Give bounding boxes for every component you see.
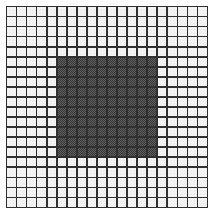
grid-cell <box>108 37 117 46</box>
grid-cell <box>17 37 26 46</box>
grid-cell <box>118 168 127 177</box>
grid-cell <box>27 198 36 207</box>
grid-cell <box>188 68 197 77</box>
grid-cell <box>37 118 46 127</box>
grid-cell <box>198 188 207 197</box>
grid-cell <box>58 17 67 26</box>
grid-cell <box>7 7 16 16</box>
grid-cell <box>188 148 197 157</box>
grid-cell <box>68 158 77 167</box>
grid-cell <box>108 138 117 147</box>
grid-cell <box>118 27 127 36</box>
grid-cell <box>128 148 137 157</box>
grid-cell <box>88 188 97 197</box>
grid-cell <box>37 7 46 16</box>
grid-cell <box>98 148 107 157</box>
grid-cell <box>148 98 157 107</box>
grid-cell <box>17 138 26 147</box>
grid-cell <box>78 118 87 127</box>
grid-cell <box>98 58 107 67</box>
grid-cell <box>168 58 177 67</box>
grid-cell <box>148 128 157 137</box>
grid-cell <box>128 17 137 26</box>
grid-cell <box>88 78 97 87</box>
grid-cell <box>138 128 147 137</box>
grid-cell <box>158 37 167 46</box>
grid-cell <box>88 58 97 67</box>
grid-cell <box>58 198 67 207</box>
grid-cell <box>168 37 177 46</box>
grid-cell <box>78 108 87 117</box>
grid-cell <box>78 148 87 157</box>
grid-cell <box>78 138 87 147</box>
grid-cell <box>58 128 67 137</box>
grid-cell <box>188 168 197 177</box>
grid-cell <box>48 58 57 67</box>
grid-cell <box>178 37 187 46</box>
grid-cell <box>17 108 26 117</box>
grid-cell <box>138 7 147 16</box>
grid-cell <box>118 128 127 137</box>
grid-cell <box>148 17 157 26</box>
grid-cell <box>58 168 67 177</box>
grid-cell <box>17 88 26 97</box>
grid-cell <box>148 148 157 157</box>
grid-cell <box>98 188 107 197</box>
grid-cell <box>88 158 97 167</box>
grid-cell <box>7 138 16 147</box>
grid-cell <box>17 58 26 67</box>
grid-cell <box>88 108 97 117</box>
grid-cell <box>17 148 26 157</box>
grid-cell <box>108 188 117 197</box>
grid-cell <box>198 138 207 147</box>
grid-cell <box>7 108 16 117</box>
grid-cell <box>138 98 147 107</box>
grid-cell <box>68 48 77 57</box>
grid-cell <box>198 198 207 207</box>
grid-cell <box>78 88 87 97</box>
grid-cell <box>118 198 127 207</box>
grid-cell <box>108 68 117 77</box>
grid-cell <box>178 98 187 107</box>
grid-cell <box>27 138 36 147</box>
grid-cell <box>198 108 207 117</box>
grid-cell <box>17 27 26 36</box>
grid-cell <box>27 17 36 26</box>
grid-cell <box>37 198 46 207</box>
grid-cell <box>48 158 57 167</box>
grid-cell <box>88 17 97 26</box>
grid-cell <box>17 198 26 207</box>
grid-cell <box>118 138 127 147</box>
grid-cell <box>37 188 46 197</box>
grid-cell <box>118 88 127 97</box>
grid-cell <box>118 108 127 117</box>
grid-cell <box>37 138 46 147</box>
grid-cell <box>37 88 46 97</box>
grid-cell <box>37 27 46 36</box>
grid-cell <box>37 108 46 117</box>
grid-cell <box>178 27 187 36</box>
grid-cell <box>68 37 77 46</box>
grid-cell <box>178 58 187 67</box>
grid-cell <box>78 17 87 26</box>
grid-cell <box>168 138 177 147</box>
grid-cell <box>48 148 57 157</box>
grid-cell <box>158 148 167 157</box>
grid-cell <box>7 158 16 167</box>
grid-cell <box>7 198 16 207</box>
grid-cell <box>108 98 117 107</box>
grid-cell <box>128 198 137 207</box>
grid-cell <box>138 178 147 187</box>
grid-cell <box>78 178 87 187</box>
grid-cell <box>68 178 77 187</box>
grid-cell <box>138 68 147 77</box>
grid-cell <box>188 118 197 127</box>
grid-cell <box>37 128 46 137</box>
grid-cell <box>128 158 137 167</box>
grid-cell <box>158 138 167 147</box>
grid-cell <box>148 48 157 57</box>
grid-cell <box>17 168 26 177</box>
grid-cell <box>98 88 107 97</box>
grid-cell <box>108 178 117 187</box>
grid-cell <box>108 108 117 117</box>
